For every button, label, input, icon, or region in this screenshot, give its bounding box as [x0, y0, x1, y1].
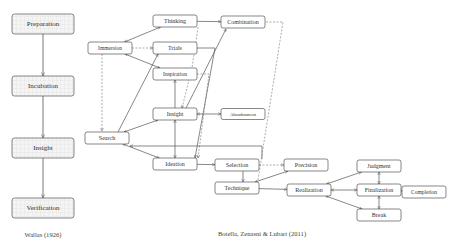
- node-ideation: Ideation: [153, 158, 197, 170]
- edge-inspiration-to-ideation: [197, 74, 209, 158]
- botella-caption: Botella, Zenasni & Lubart (2011): [218, 230, 306, 238]
- node-insight: Insight: [153, 108, 197, 120]
- node-label-realization: Realization: [295, 187, 322, 193]
- creative-process-diagram: PreparationIncubationInsightVerification…: [0, 0, 457, 246]
- node-abandonment: Abandonment: [221, 109, 265, 120]
- node-combination: Combination: [221, 16, 265, 28]
- node-label-incubation: Incubation: [28, 82, 58, 90]
- node-label-thinking: Thinking: [164, 18, 186, 24]
- node-precision: Precision: [284, 159, 328, 171]
- edge-technique-to-precision: [255, 171, 288, 182]
- node-label-inspiration: Inspiration: [163, 71, 187, 77]
- edge-technique-to-realization: [259, 189, 287, 190]
- node-preparation: Preparation: [12, 14, 74, 34]
- wallas-caption: Wallas (1926): [24, 231, 61, 239]
- node-label-preparation: Preparation: [27, 20, 60, 28]
- node-label-precision: Precision: [295, 162, 317, 168]
- node-insight_w: Insight: [12, 138, 74, 158]
- node-label-trials: Trials: [168, 45, 182, 51]
- node-inspiration: Inspiration: [153, 68, 197, 80]
- edge-trials-to-ideation: [195, 48, 215, 158]
- node-label-technique: Technique: [225, 185, 250, 191]
- node-trials: Trials: [153, 42, 197, 54]
- node-label-selection: Selection: [226, 162, 248, 168]
- node-immersion: Immersion: [88, 42, 132, 54]
- node-judgment: Judgment: [357, 160, 401, 172]
- edge-thinking-to-insight: [182, 27, 198, 108]
- node-finalization: Finalization: [357, 184, 401, 196]
- node-label-abandonment: Abandonment: [230, 112, 257, 117]
- node-label-insight_w: Insight: [33, 144, 53, 152]
- node-realization: Realization: [287, 184, 331, 196]
- edge-realization-to-judgment: [327, 172, 362, 184]
- node-label-immersion: Immersion: [98, 45, 122, 51]
- diagram-canvas: PreparationIncubationInsightVerification…: [0, 0, 457, 246]
- node-label-combination: Combination: [227, 19, 258, 25]
- node-label-search: Search: [99, 135, 115, 141]
- node-label-finalization: Finalization: [365, 187, 394, 193]
- edge-search-to-insight: [124, 120, 158, 132]
- node-label-ideation: Ideation: [165, 161, 185, 167]
- node-break: Break: [357, 209, 401, 221]
- node-verification: Verification: [12, 198, 74, 218]
- node-label-judgment: Judgment: [367, 163, 391, 169]
- node-technique: Technique: [215, 182, 259, 194]
- node-thinking: Thinking: [153, 15, 197, 27]
- node-incubation: Incubation: [12, 76, 74, 96]
- edge-realization-to-break: [326, 196, 362, 209]
- node-label-completion: Completion: [411, 189, 437, 195]
- node-search: Search: [85, 132, 129, 144]
- edge-immersion-to-thinking: [124, 27, 160, 42]
- node-label-verification: Verification: [26, 204, 60, 212]
- node-completion: Completion: [402, 186, 446, 198]
- node-label-break: Break: [372, 212, 386, 218]
- node-label-insight: Insight: [167, 111, 184, 117]
- nodes-layer: PreparationIncubationInsightVerification…: [12, 14, 446, 221]
- edge-search-to-trials: [118, 54, 158, 132]
- node-selection: Selection: [215, 159, 259, 171]
